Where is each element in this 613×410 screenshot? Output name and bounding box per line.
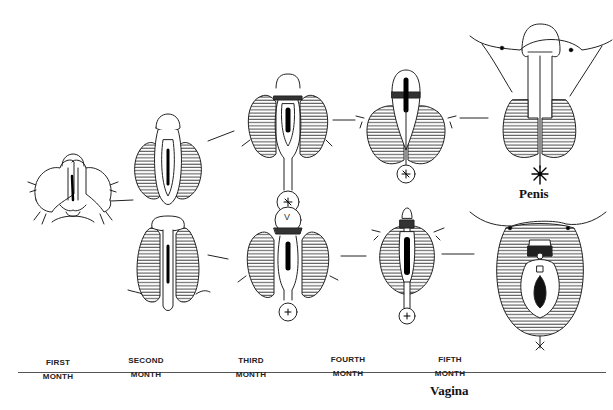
stage-2-female-figure xyxy=(128,216,210,311)
stage-5-vagina-figure xyxy=(470,212,606,350)
month-label-fourth-bottom: MONTH xyxy=(323,369,373,379)
penis-label: Penis xyxy=(519,186,549,202)
connector-line xyxy=(208,131,234,141)
timeline-axis-line xyxy=(18,372,606,373)
connector-line xyxy=(208,255,228,259)
month-label-fourth: FOURTH MONTH xyxy=(323,355,373,379)
month-label-second-bottom: MONTH xyxy=(121,370,171,380)
month-label-third: THIRD MONTH xyxy=(226,356,276,380)
month-label-second-top: SECOND xyxy=(121,356,171,366)
stage-4-male-figure xyxy=(356,70,456,183)
month-label-second: SECOND MONTH xyxy=(121,356,171,380)
month-label-third-top: THIRD xyxy=(226,356,276,366)
stage-3-male-figure xyxy=(242,74,332,213)
diagram-drawing xyxy=(0,0,613,410)
diagram-canvas: FIRST MONTH SECOND MONTH THIRD MONTH FOU… xyxy=(0,0,613,410)
month-label-fifth-bottom: MONTH xyxy=(425,369,475,379)
stage-4-female-figure xyxy=(372,208,444,324)
month-label-fourth-top: FOURTH xyxy=(323,355,373,365)
stage-2-male-figure xyxy=(135,114,202,205)
month-label-first: FIRST MONTH xyxy=(38,358,78,382)
stage-5-penis-figure xyxy=(470,24,612,184)
month-label-first-bottom: MONTH xyxy=(38,372,78,382)
month-label-third-bottom: MONTH xyxy=(226,370,276,380)
vagina-label: Vagina xyxy=(430,383,469,399)
month-label-first-top: FIRST xyxy=(38,358,78,368)
figure-annotation-v: V xyxy=(284,212,290,222)
stage-1-indifferent-figure xyxy=(28,154,118,224)
month-label-fifth-top: FIFTH xyxy=(425,355,475,365)
month-label-fifth: FIFTH MONTH xyxy=(425,355,475,379)
connector-line xyxy=(111,200,133,201)
stage-3-female-figure xyxy=(238,207,338,321)
